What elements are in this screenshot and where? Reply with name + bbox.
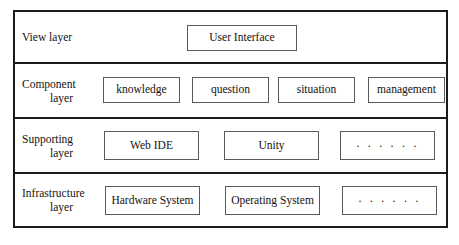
node-situation-label: situation	[297, 84, 337, 96]
layer-nodes-supporting: Web IDE Unity · · · · · ·	[101, 119, 446, 172]
node-hardware-system[interactable]: Hardware System	[105, 186, 200, 215]
node-situation[interactable]: situation	[278, 77, 355, 103]
node-web-ide[interactable]: Web IDE	[104, 131, 199, 160]
node-operating-system-label: Operating System	[231, 195, 314, 207]
layer-label-view: View layer	[15, 30, 101, 44]
layer-label-infrastructure: Infrastructure layer	[15, 186, 101, 214]
ellipsis-icon: · · · · · ·	[358, 195, 421, 207]
node-unity[interactable]: Unity	[224, 131, 319, 160]
layer-row-view: View layer User Interface	[15, 12, 446, 62]
layer-label-infrastructure-line1: Infrastructure	[22, 186, 101, 200]
layer-row-supporting: Supporting layer Web IDE Unity · · · · ·…	[15, 117, 446, 172]
node-web-ide-label: Web IDE	[130, 140, 173, 152]
layer-label-component-line2: layer	[22, 91, 101, 105]
ellipsis-icon: · · · · · ·	[356, 140, 419, 152]
node-user-interface[interactable]: User Interface	[187, 25, 297, 51]
node-operating-system[interactable]: Operating System	[225, 186, 320, 215]
node-question[interactable]: question	[192, 77, 269, 103]
layer-row-component: Component layer knowledge question situa…	[15, 62, 446, 117]
layer-label-component-line1: Component	[22, 77, 101, 91]
node-infrastructure-ellipsis[interactable]: · · · · · ·	[342, 186, 437, 215]
layer-label-view-line1: View layer	[22, 30, 101, 44]
node-knowledge[interactable]: knowledge	[103, 77, 180, 103]
node-knowledge-label: knowledge	[116, 84, 166, 96]
node-question-label: question	[211, 84, 250, 96]
layer-row-infrastructure: Infrastructure layer Hardware System Ope…	[15, 172, 446, 226]
layer-nodes-component: knowledge question situation management	[101, 64, 446, 117]
node-hardware-system-label: Hardware System	[111, 195, 193, 207]
layer-nodes-infrastructure: Hardware System Operating System · · · ·…	[101, 174, 446, 226]
node-unity-label: Unity	[258, 140, 284, 152]
node-supporting-ellipsis[interactable]: · · · · · ·	[340, 131, 435, 160]
architecture-diagram: View layer User Interface Component laye…	[13, 10, 448, 228]
node-user-interface-label: User Interface	[209, 32, 274, 44]
layer-label-supporting-line2: layer	[22, 146, 101, 160]
layer-label-component: Component layer	[15, 77, 101, 105]
layer-label-supporting: Supporting layer	[15, 132, 101, 160]
layer-nodes-view: User Interface	[101, 12, 446, 62]
node-management-label: management	[377, 84, 436, 96]
node-management[interactable]: management	[368, 77, 445, 103]
layer-label-supporting-line1: Supporting	[22, 132, 101, 146]
layer-label-infrastructure-line2: layer	[22, 200, 101, 214]
